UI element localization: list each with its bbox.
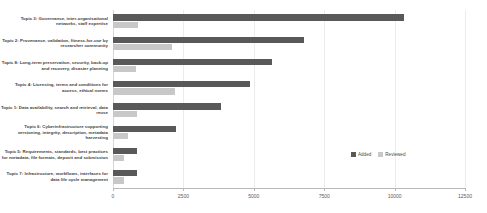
bar-group bbox=[113, 121, 465, 143]
bar-track bbox=[113, 44, 465, 50]
bar-track bbox=[113, 37, 465, 43]
bar-added bbox=[113, 59, 272, 65]
bar-reviewed bbox=[113, 22, 138, 28]
bar-group bbox=[113, 144, 465, 166]
bar-group bbox=[113, 99, 465, 121]
bar-group bbox=[113, 55, 465, 77]
bar-group bbox=[113, 32, 465, 54]
x-tick-label-0: 0 bbox=[112, 193, 115, 199]
bar-track bbox=[113, 111, 465, 117]
bar-reviewed bbox=[113, 111, 137, 117]
category-label: Topic 2: Provenance, validation, fitness… bbox=[0, 38, 108, 49]
legend-item-reviewed: Reviewed bbox=[378, 152, 405, 157]
category-label: Topic 5: Requirements, standards, best p… bbox=[0, 149, 108, 160]
x-tick-label-10000: 10000 bbox=[388, 193, 402, 199]
bar-reviewed bbox=[113, 44, 172, 50]
bar-added bbox=[113, 170, 137, 176]
bar-reviewed bbox=[113, 66, 136, 72]
x-tick-2500 bbox=[183, 188, 184, 191]
bar-track bbox=[113, 22, 465, 28]
x-tick-label-2500: 2500 bbox=[178, 193, 189, 199]
x-tick-5000 bbox=[254, 188, 255, 191]
x-tick-label-12500: 12500 bbox=[458, 193, 472, 199]
bar-track bbox=[113, 81, 465, 87]
x-tick-7500 bbox=[324, 188, 325, 191]
x-tick-12500 bbox=[465, 188, 466, 191]
bar-added bbox=[113, 81, 250, 87]
bar-group bbox=[113, 10, 465, 32]
category-label: Topic 6: Cyberinfrastructure supporting … bbox=[0, 124, 108, 140]
legend-swatch-added-icon bbox=[351, 152, 356, 157]
bar-track bbox=[113, 66, 465, 72]
bar-track bbox=[113, 59, 465, 65]
category-label: Topic 1: Data availability, search and r… bbox=[0, 105, 108, 116]
legend-label-added: Added bbox=[358, 152, 371, 157]
legend-item-added: Added bbox=[351, 152, 371, 157]
legend-label-reviewed: Reviewed bbox=[385, 152, 405, 157]
legend-swatch-reviewed-icon bbox=[378, 152, 383, 157]
bar-track bbox=[113, 155, 465, 161]
bar-reviewed bbox=[113, 177, 124, 183]
bar-added bbox=[113, 103, 221, 109]
bar-reviewed bbox=[113, 155, 124, 161]
category-label: Topic 3: Governance, inter-organisationa… bbox=[0, 16, 108, 27]
bar-track bbox=[113, 170, 465, 176]
bar-track bbox=[113, 133, 465, 139]
legend: Added Reviewed bbox=[351, 152, 405, 157]
gridline-12500 bbox=[465, 10, 466, 188]
category-label: Topic 8: Long-term preservation, securit… bbox=[0, 60, 108, 71]
x-tick-0 bbox=[113, 188, 114, 191]
bar-track bbox=[113, 148, 465, 154]
x-axis: 02500500075001000012500 bbox=[113, 188, 465, 189]
bar-reviewed bbox=[113, 133, 128, 139]
bar-track bbox=[113, 126, 465, 132]
category-label: Topic 4: Licensing, terms and conditions… bbox=[0, 82, 108, 93]
bar-track bbox=[113, 88, 465, 94]
bar-track bbox=[113, 177, 465, 183]
bar-added bbox=[113, 126, 176, 132]
bar-added bbox=[113, 14, 404, 20]
bar-reviewed bbox=[113, 88, 175, 94]
x-tick-label-7500: 7500 bbox=[319, 193, 330, 199]
bar-added bbox=[113, 148, 137, 154]
category-label: Topic 7: Infrastructure, workflows, inte… bbox=[0, 171, 108, 182]
bar-group bbox=[113, 166, 465, 188]
bar-added bbox=[113, 37, 304, 43]
bar-track bbox=[113, 103, 465, 109]
bar-chart: Topic 3: Governance, inter-organisationa… bbox=[0, 0, 487, 213]
bar-track bbox=[113, 14, 465, 20]
bar-group bbox=[113, 77, 465, 99]
x-tick-label-5000: 5000 bbox=[248, 193, 259, 199]
plot-area bbox=[113, 10, 465, 188]
x-tick-10000 bbox=[395, 188, 396, 191]
